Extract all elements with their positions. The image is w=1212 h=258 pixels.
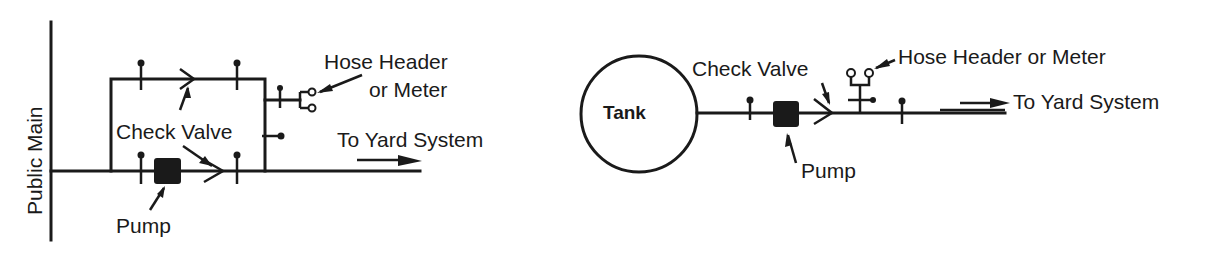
- gate-valve-icon: [138, 60, 145, 91]
- leader-arrow-icon: [874, 59, 895, 69]
- gate-valve-icon: [277, 85, 283, 108]
- leader-arrow-icon: [785, 133, 796, 163]
- diagram-canvas: Public Main: [0, 0, 1212, 258]
- pump-label: Pump: [801, 159, 856, 182]
- pump-icon: [154, 158, 181, 184]
- to-yard-label: To Yard System: [1013, 90, 1159, 113]
- gate-valve-icon: [747, 97, 754, 121]
- leader-arrow-icon: [150, 186, 165, 210]
- gate-valve-icon: [234, 60, 241, 91]
- gate-valve-icon: [234, 152, 241, 185]
- leader-arrow-icon: [183, 146, 212, 166]
- hose-header-label-line2: or Meter: [369, 78, 447, 101]
- right-diagram: Tank: [581, 45, 1159, 182]
- public-main-label: Public Main: [23, 106, 46, 215]
- tank-label: Tank: [603, 102, 646, 123]
- to-yard-arrow-icon: [357, 155, 422, 166]
- leader-arrow-icon: [180, 86, 191, 110]
- left-diagram: Public Main: [23, 22, 483, 240]
- gate-valve-icon: [138, 152, 145, 185]
- hose-header-label-line1: Hose Header: [324, 50, 448, 73]
- check-valve-label: Check Valve: [116, 120, 232, 143]
- to-yard-label: To Yard System: [337, 128, 483, 151]
- pump-icon: [773, 101, 799, 127]
- gate-valve-icon: [899, 98, 906, 125]
- to-yard-arrow-icon: [960, 98, 1010, 108]
- hose-header-label: Hose Header or Meter: [898, 45, 1106, 68]
- hose-header-icon: [847, 69, 876, 113]
- pump-label: Pump: [116, 214, 171, 237]
- check-valve-label: Check Valve: [692, 57, 808, 80]
- leader-arrow-icon: [822, 83, 830, 105]
- leader-arrow-icon: [317, 75, 362, 93]
- hose-outlet-icon: [300, 89, 316, 112]
